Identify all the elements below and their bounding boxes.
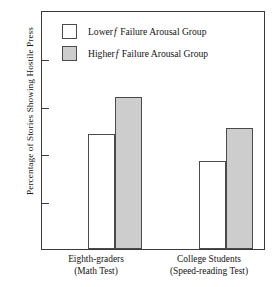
tick-mark	[42, 155, 49, 156]
legend: Lowerf Failure Arousal Group Higherf Fai…	[62, 20, 258, 64]
tick-mark	[42, 108, 49, 109]
x-label-group2-line1: College Students	[177, 254, 241, 264]
y-axis-title: Percentage of Stories Showing Hostile Pr…	[25, 11, 35, 211]
x-label-group1-line2: (Math Test)	[41, 265, 151, 277]
x-axis-labels: Eighth-graders (Math Test) College Stude…	[41, 253, 265, 287]
bar-group1-lower	[88, 134, 115, 249]
bar-chart: Percentage of Stories Showing Hostile Pr…	[0, 0, 273, 287]
tick-mark	[42, 60, 49, 61]
x-label-group2-line2: (Speed-reading Test)	[153, 265, 265, 277]
plot-area: 50 40 30 20 10 Lowerf Failure Arousal Gr…	[41, 11, 265, 250]
legend-label-lower: Lowerf Failure Arousal Group	[88, 26, 206, 37]
bar-group2-lower	[199, 161, 226, 249]
legend-item-lower: Lowerf Failure Arousal Group	[62, 20, 258, 42]
legend-swatch-higher	[62, 46, 77, 61]
bar-group1-higher	[115, 97, 142, 249]
legend-swatch-lower	[62, 24, 77, 39]
bar-group2-higher	[226, 128, 253, 249]
x-label-group2: College Students (Speed-reading Test)	[153, 253, 265, 278]
legend-item-higher: Higherf Failure Arousal Group	[62, 42, 258, 64]
tick-mark	[42, 203, 49, 204]
x-label-group1-line1: Eighth-graders	[68, 254, 124, 264]
legend-label-higher: Higherf Failure Arousal Group	[88, 48, 208, 59]
x-label-group1: Eighth-graders (Math Test)	[41, 253, 151, 278]
